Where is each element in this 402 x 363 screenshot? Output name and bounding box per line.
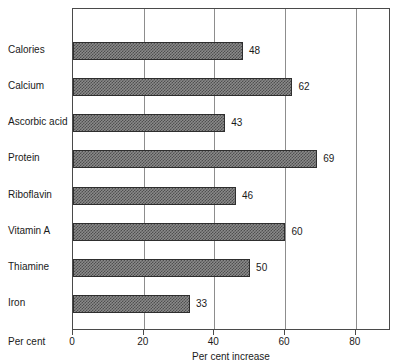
gridline-60: [285, 9, 286, 329]
bar-ascorbic-acid: [73, 114, 225, 132]
per-cent-corner-label: Per cent: [8, 337, 45, 347]
tick-mark-60: [284, 330, 285, 335]
bar-chart: Calories Calcium Ascorbic acid Protein R…: [0, 0, 402, 363]
bar-value-iron: 33: [196, 299, 207, 309]
bar-value-vitamin-a: 60: [291, 227, 302, 237]
bar-riboflavin: [73, 187, 236, 205]
bar-value-riboflavin: 46: [242, 191, 253, 201]
bar-value-ascorbic-acid: 43: [231, 118, 242, 128]
category-label-thiamine: Thiamine: [0, 262, 66, 272]
category-label-calories: Calories: [0, 45, 66, 55]
bar-vitamin-a: [73, 223, 285, 241]
bar-calories: [73, 42, 243, 60]
tick-mark-0: [72, 330, 73, 335]
category-label-vitamin-a: Vitamin A: [0, 226, 66, 236]
bar-thiamine: [73, 259, 250, 277]
tick-label-80: 80: [349, 337, 360, 347]
category-label-ascorbic-acid: Ascorbic acid: [0, 117, 66, 127]
tick-mark-80: [355, 330, 356, 335]
bar-value-calcium: 62: [299, 82, 310, 92]
category-label-protein: Protein: [0, 153, 66, 163]
gridline-80: [356, 9, 357, 329]
bar-value-thiamine: 50: [256, 263, 267, 273]
bar-value-protein: 69: [323, 154, 334, 164]
tick-label-0: 0: [69, 337, 75, 347]
bar-value-calories: 48: [249, 46, 260, 56]
tick-mark-40: [213, 330, 214, 335]
bar-protein: [73, 150, 317, 168]
tick-label-40: 40: [208, 337, 219, 347]
plot-area: 48 62 43 69 46 60 50 33: [72, 8, 390, 330]
tick-label-60: 60: [278, 337, 289, 347]
category-label-iron: Iron: [0, 298, 66, 308]
bar-iron: [73, 295, 190, 313]
category-label-riboflavin: Riboflavin: [0, 190, 66, 200]
tick-label-20: 20: [137, 337, 148, 347]
bar-calcium: [73, 78, 292, 96]
category-label-calcium: Calcium: [0, 81, 66, 91]
x-axis-title: Per cent increase: [72, 352, 390, 362]
tick-mark-20: [143, 330, 144, 335]
